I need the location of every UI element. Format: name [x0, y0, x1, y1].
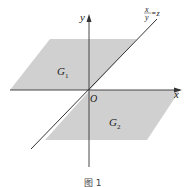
- caption: 图 1: [84, 178, 102, 187]
- line-label-y: y: [144, 13, 149, 22]
- region-g1: [10, 39, 137, 90]
- region-g2: [45, 90, 180, 140]
- diagram: y x O G1 G2 x y =z 图 1: [0, 0, 186, 187]
- origin-label: O: [90, 93, 97, 104]
- y-axis-arrow-icon: [87, 14, 92, 22]
- line-label-z: =z: [151, 9, 160, 18]
- x-axis-label: x: [173, 88, 179, 100]
- y-axis-label: y: [79, 11, 85, 23]
